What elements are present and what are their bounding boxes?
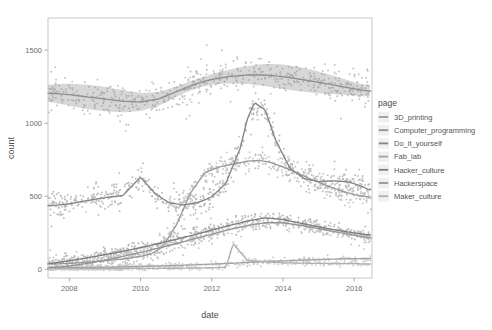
scatter-point bbox=[339, 188, 341, 190]
legend-item-3d-printing[interactable]: 3D_printing bbox=[378, 112, 432, 123]
scatter-point bbox=[330, 222, 332, 224]
scatter-point bbox=[194, 212, 196, 214]
scatter-point bbox=[274, 113, 276, 115]
scatter-point bbox=[226, 223, 228, 225]
legend-item-label: Maker_culture bbox=[394, 192, 442, 201]
scatter-point bbox=[264, 76, 266, 78]
scatter-point bbox=[101, 191, 103, 193]
scatter-point bbox=[313, 78, 315, 80]
scatter-point bbox=[205, 210, 207, 212]
scatter-point bbox=[199, 85, 201, 87]
scatter-point bbox=[368, 93, 370, 95]
scatter-point bbox=[149, 117, 151, 119]
scatter-point bbox=[362, 175, 364, 177]
scatter-point bbox=[254, 216, 256, 218]
scatter-point bbox=[244, 227, 246, 229]
scatter-point bbox=[241, 229, 243, 231]
scatter-point bbox=[55, 259, 57, 261]
legend-item-maker-culture[interactable]: Maker_culture bbox=[378, 191, 442, 202]
scatter-point bbox=[168, 96, 170, 98]
scatter-point bbox=[262, 163, 264, 165]
scatter-point bbox=[65, 91, 67, 93]
legend-item-fab-lab[interactable]: Fab_lab bbox=[378, 151, 421, 162]
scatter-point bbox=[364, 184, 366, 186]
scatter-point bbox=[70, 196, 72, 198]
scatter-point bbox=[361, 177, 363, 179]
scatter-point bbox=[262, 220, 264, 222]
scatter-point bbox=[255, 228, 257, 230]
scatter-point bbox=[260, 265, 262, 267]
scatter-point bbox=[342, 189, 344, 191]
scatter-point bbox=[210, 191, 212, 193]
scatter-point bbox=[277, 81, 279, 83]
scatter-point bbox=[115, 105, 117, 107]
scatter-point bbox=[200, 196, 202, 198]
scatter-point bbox=[203, 188, 205, 190]
scatter-point bbox=[84, 81, 86, 83]
scatter-point bbox=[89, 258, 91, 260]
scatter-point bbox=[196, 226, 198, 228]
scatter-point bbox=[349, 73, 351, 75]
x-tick-label: 2010 bbox=[132, 284, 149, 293]
scatter-point bbox=[252, 100, 254, 102]
scatter-point bbox=[193, 244, 195, 246]
scatter-point bbox=[204, 203, 206, 205]
scatter-point bbox=[226, 168, 228, 170]
scatter-point bbox=[139, 90, 141, 92]
scatter-point bbox=[361, 84, 363, 86]
scatter-point bbox=[176, 191, 178, 193]
scatter-point bbox=[237, 89, 239, 91]
scatter-point bbox=[296, 180, 298, 182]
scatter-point bbox=[59, 211, 61, 213]
scatter-point bbox=[307, 220, 309, 222]
scatter-point bbox=[61, 269, 63, 271]
scatter-point bbox=[177, 104, 179, 106]
scatter-point bbox=[342, 178, 344, 180]
scatter-point bbox=[89, 265, 91, 267]
scatter-point bbox=[129, 110, 131, 112]
scatter-point bbox=[117, 249, 119, 251]
scatter-point bbox=[111, 256, 113, 258]
scatter-point bbox=[142, 97, 144, 99]
scatter-point bbox=[253, 86, 255, 88]
scatter-point bbox=[127, 124, 129, 126]
scatter-point bbox=[312, 230, 314, 232]
scatter-point bbox=[161, 250, 163, 252]
legend-item-hacker-culture[interactable]: Hacker_culture bbox=[378, 165, 444, 176]
scatter-point bbox=[208, 193, 210, 195]
scatter-point bbox=[280, 220, 282, 222]
scatter-point bbox=[364, 192, 366, 194]
scatter-point bbox=[248, 157, 250, 159]
scatter-point bbox=[312, 164, 314, 166]
scatter-point bbox=[137, 96, 139, 98]
scatter-point bbox=[87, 110, 89, 112]
scatter-point bbox=[252, 221, 254, 223]
scatter-point bbox=[135, 105, 137, 107]
scatter-point bbox=[339, 184, 341, 186]
scatter-point bbox=[199, 90, 201, 92]
scatter-point bbox=[279, 71, 281, 73]
scatter-point bbox=[335, 194, 337, 196]
scatter-point bbox=[97, 193, 99, 195]
scatter-point bbox=[227, 232, 229, 234]
scatter-point bbox=[259, 215, 261, 217]
scatter-point bbox=[195, 194, 197, 196]
scatter-point bbox=[109, 86, 111, 88]
scatter-point bbox=[362, 202, 364, 204]
legend-item-do-it-yourself[interactable]: Do_it_yourself bbox=[378, 138, 443, 149]
scatter-point bbox=[319, 173, 321, 175]
scatter-point bbox=[331, 188, 333, 190]
scatter-point bbox=[221, 161, 223, 163]
scatter-point bbox=[54, 197, 56, 199]
scatter-point bbox=[103, 250, 105, 252]
legend-item-hackerspace[interactable]: Hackerspace bbox=[378, 178, 438, 189]
scatter-point bbox=[182, 263, 184, 265]
scatter-point bbox=[308, 85, 310, 87]
scatter-point bbox=[162, 108, 164, 110]
scatter-point bbox=[200, 212, 202, 214]
scatter-point bbox=[167, 92, 169, 94]
scatter-point bbox=[335, 77, 337, 79]
scatter-point bbox=[118, 191, 120, 193]
scatter-point bbox=[315, 94, 317, 96]
scatter-point bbox=[362, 180, 364, 182]
